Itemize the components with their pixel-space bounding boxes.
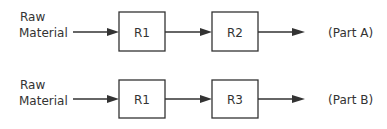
input-label-raw: Raw [20, 78, 45, 92]
stage-label-r3: R3 [227, 93, 243, 107]
arrowhead-icon [292, 28, 305, 36]
input-label-raw: Raw [20, 10, 45, 24]
flow-row-part-b: Raw Material R1 R3 (Part B) [19, 78, 373, 118]
stage-label-r2: R2 [227, 26, 243, 40]
arrowhead-icon [107, 28, 119, 36]
arrowhead-icon [107, 95, 119, 103]
arrowhead-icon [200, 28, 212, 36]
stage-label-r1: R1 [134, 93, 150, 107]
input-label-material: Material [19, 94, 68, 108]
output-label-part-b: (Part B) [328, 93, 373, 107]
flow-row-part-a: Raw Material R1 R2 (Part A) [19, 10, 373, 51]
process-flow-diagram: Raw Material R1 R2 (Part A) Raw Material… [0, 0, 387, 129]
output-label-part-a: (Part A) [328, 26, 373, 40]
stage-label-r1: R1 [134, 26, 150, 40]
arrowhead-icon [200, 95, 212, 103]
arrowhead-icon [292, 95, 305, 103]
input-label-material: Material [19, 26, 68, 40]
